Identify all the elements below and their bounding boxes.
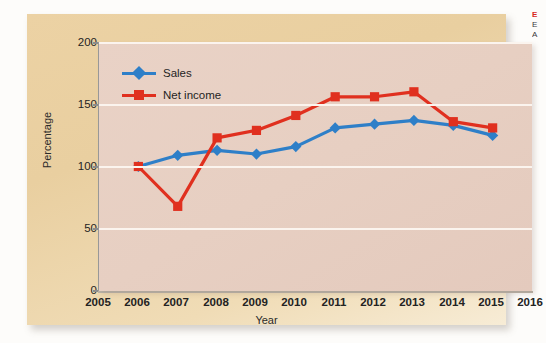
- y-axis-title: Percentage: [41, 80, 53, 200]
- data-point-net-income-2015[interactable]: [488, 123, 497, 132]
- y-tick-label-200: 200: [57, 36, 97, 48]
- caption-fragment-line3: A: [532, 30, 546, 40]
- legend-label-sales: Sales: [163, 67, 192, 79]
- caption-fragment-line2: E: [532, 20, 546, 30]
- gridline-200: [99, 42, 532, 44]
- data-point-net-income-2014[interactable]: [449, 117, 458, 126]
- legend-item-net-income[interactable]: Net income: [122, 84, 272, 106]
- x-tick-label-2007: 2007: [154, 296, 198, 308]
- x-tick-label-2012: 2012: [351, 296, 395, 308]
- legend-swatch-net-income: [122, 88, 156, 102]
- data-point-net-income-2009[interactable]: [252, 126, 261, 135]
- legend-item-sales[interactable]: Sales: [122, 62, 272, 84]
- x-tick-label-2010: 2010: [272, 296, 316, 308]
- series-line-sales: [138, 120, 492, 166]
- y-tick-label-50: 50: [57, 222, 97, 234]
- data-point-sales-2012[interactable]: [369, 119, 380, 130]
- y-tick-label-0: 0: [57, 284, 97, 296]
- data-point-sales-2013[interactable]: [408, 115, 419, 126]
- data-point-sales-2007[interactable]: [172, 150, 183, 161]
- series-line-net-income: [138, 92, 492, 207]
- data-point-net-income-2008[interactable]: [212, 133, 221, 142]
- data-point-net-income-2012[interactable]: [370, 92, 379, 101]
- figure-root: Percentage 200 150 100 50 0: [0, 0, 546, 343]
- x-tick-label-2008: 2008: [194, 296, 238, 308]
- data-point-sales-2010[interactable]: [290, 141, 301, 152]
- y-tick-label-150: 150: [57, 98, 97, 110]
- x-axis-spine: [98, 291, 533, 293]
- square-marker-icon: [134, 90, 144, 100]
- diamond-marker-icon: [132, 66, 146, 80]
- chart-legend: Sales Net income: [122, 62, 272, 106]
- x-tick-label-2014: 2014: [430, 296, 474, 308]
- data-point-net-income-2011[interactable]: [331, 92, 340, 101]
- legend-swatch-sales: [122, 66, 156, 80]
- data-point-net-income-2010[interactable]: [291, 111, 300, 120]
- y-tick-label-100: 100: [57, 160, 97, 172]
- data-point-sales-2009[interactable]: [251, 148, 262, 159]
- caption-fragment: E E A: [532, 10, 546, 40]
- gridline-100: [99, 166, 532, 168]
- x-tick-label-2009: 2009: [233, 296, 277, 308]
- data-point-sales-2011[interactable]: [330, 122, 341, 133]
- x-tick-label-2006: 2006: [115, 296, 159, 308]
- x-axis-title: Year: [27, 314, 506, 326]
- data-point-net-income-2007[interactable]: [173, 202, 182, 211]
- caption-fragment-line1: E: [532, 10, 546, 20]
- x-tick-label-2013: 2013: [390, 296, 434, 308]
- data-point-net-income-2013[interactable]: [409, 87, 418, 96]
- x-tick-label-2016: 2016: [508, 296, 546, 308]
- gridline-50: [99, 228, 532, 230]
- x-tick-label-2011: 2011: [312, 296, 356, 308]
- x-tick-label-2015: 2015: [469, 296, 513, 308]
- legend-label-net-income: Net income: [163, 89, 221, 101]
- chart-card: Percentage 200 150 100 50 0: [27, 14, 506, 325]
- x-tick-label-2005: 2005: [76, 296, 120, 308]
